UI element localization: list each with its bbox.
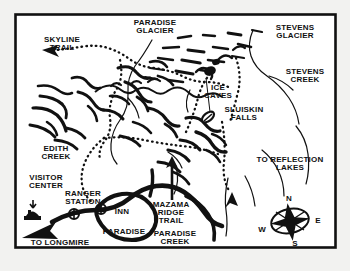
compass-south-label: S [292, 239, 297, 248]
compass-east-label: E [315, 216, 320, 225]
trail-map-figure: SKYLINE TRAIL PARADISE GLACIER STEVENS G… [0, 0, 350, 271]
paradise-inn-building [96, 204, 106, 214]
ranger-station-building [69, 209, 79, 219]
compass-north-label: N [286, 194, 292, 203]
map-canvas [0, 0, 350, 271]
compass-west-label: W [258, 225, 266, 234]
